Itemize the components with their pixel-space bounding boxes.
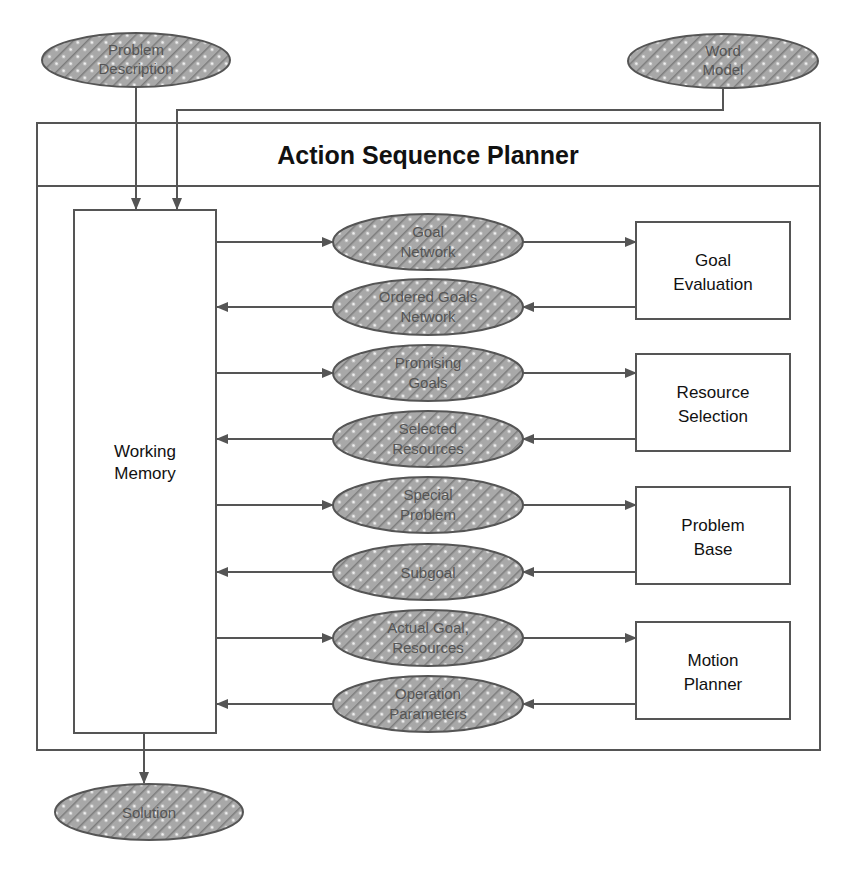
module-problem-base: Problem Base [636,487,790,584]
svg-text:Problem: Problem [400,506,456,523]
svg-text:Goal: Goal [695,251,731,270]
svg-text:Parameters: Parameters [389,705,467,722]
solution-node: Solution [55,784,243,840]
module-resource-selection: Resource Selection [636,354,790,451]
svg-text:Network: Network [400,243,456,260]
svg-text:Motion: Motion [687,651,738,670]
flow-selected-resources: Selected Resources [333,411,523,467]
svg-text:Subgoal: Subgoal [400,564,455,581]
flow-special-problem: Special Problem [333,477,523,533]
action-sequence-planner-diagram: Action Sequence Planner Problem Descript… [0,0,860,873]
svg-text:Planner: Planner [684,675,743,694]
svg-text:Actual Goal,: Actual Goal, [387,619,469,636]
svg-text:Resource: Resource [677,383,750,402]
svg-text:Memory: Memory [114,464,176,483]
svg-text:Resources: Resources [392,440,464,457]
svg-text:Special: Special [403,486,452,503]
flow-ordered-goals-network: Ordered Goals Network [333,279,523,335]
svg-text:Network: Network [400,308,456,325]
word-model-node: Word Model [628,34,818,88]
svg-text:Problem: Problem [681,516,744,535]
svg-text:Working: Working [114,442,176,461]
svg-text:Model: Model [703,61,744,78]
module-goal-evaluation: Goal Evaluation [636,222,790,319]
module-motion-planner: Motion Planner [636,622,790,719]
svg-text:Problem: Problem [108,41,164,58]
svg-text:Goal: Goal [412,223,444,240]
svg-text:Solution: Solution [122,804,176,821]
svg-text:Selected: Selected [399,420,457,437]
working-memory-box: Working Memory [74,210,216,733]
diagram-title: Action Sequence Planner [277,141,579,169]
svg-text:Evaluation: Evaluation [673,275,752,294]
flow-operation-parameters: Operation Parameters [333,676,523,732]
flow-promising-goals: Promising Goals [333,345,523,401]
svg-text:Promising: Promising [395,354,462,371]
svg-text:Operation: Operation [395,685,461,702]
flow-goal-network: Goal Network [333,214,523,270]
svg-text:Goals: Goals [408,374,447,391]
svg-text:Resources: Resources [392,639,464,656]
problem-description-node: Problem Description [42,33,230,87]
svg-text:Ordered Goals: Ordered Goals [379,288,477,305]
flow-actual-goal-resources: Actual Goal, Resources [333,610,523,666]
svg-text:Description: Description [98,60,173,77]
svg-text:Selection: Selection [678,407,748,426]
svg-text:Base: Base [694,540,733,559]
flow-subgoal: Subgoal [333,544,523,600]
svg-text:Word: Word [705,42,741,59]
